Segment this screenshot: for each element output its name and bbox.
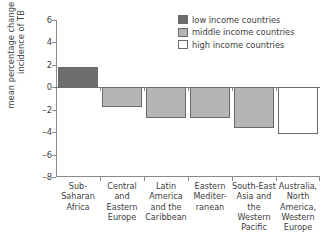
x-axis-category-label-line: South-East (232, 181, 276, 191)
baseline-tick-mark (144, 87, 145, 91)
bar (102, 87, 142, 107)
legend-swatch (178, 28, 188, 37)
x-axis-category-label-line: ranean (188, 202, 232, 212)
y-axis-line (56, 20, 57, 177)
x-axis-category-label-line: Europe (100, 212, 144, 222)
y-axis-tick-mark (52, 132, 56, 133)
legend-item: high income countries (178, 39, 295, 50)
y-axis-title-line-2: incidence of TB (16, 10, 26, 74)
baseline-tick-mark (232, 87, 233, 91)
y-axis-tick-label: –4 (43, 127, 52, 137)
x-axis-category-label-line: Latin (144, 181, 188, 191)
y-axis-tick-mark (52, 42, 56, 43)
legend-item: low income countries (178, 14, 295, 25)
x-axis-category-label-line: Central and (100, 181, 144, 202)
y-axis-tick-mark (52, 155, 56, 156)
x-axis-category-label-line: and the (144, 202, 188, 212)
x-axis-category-label-line: North (276, 191, 320, 201)
bar (234, 87, 274, 127)
legend-swatch (178, 15, 188, 24)
x-axis-category-label: South-EastAsia andthe WesternPacific (232, 181, 276, 233)
x-axis-category-label: Australia,NorthAmerica,WesternEurope (276, 181, 320, 233)
x-axis-category-label: Central andEasternEurope (100, 181, 144, 222)
y-axis-tick-label: –2 (43, 105, 52, 115)
y-axis-tick-mark (52, 110, 56, 111)
x-axis-category-label: LatinAmericaand theCaribbean (144, 181, 188, 222)
x-axis-category-label: Sub-SaharanAfrica (56, 181, 100, 212)
x-axis-category-label-line: Saharan (56, 191, 100, 201)
y-axis-title: mean percentage change in the incidence … (0, 0, 32, 122)
x-axis-category-label-line: Sub- (56, 181, 100, 191)
y-axis-tick-mark (52, 20, 56, 21)
x-axis-category-label-line: Asia and (232, 191, 276, 201)
x-axis-category-label-line: America, (276, 202, 320, 212)
x-axis-category-label-line: the Western (232, 202, 276, 223)
x-axis-category-label-line: Western (276, 212, 320, 222)
bar (146, 87, 186, 117)
x-axis-category-label-line: Pacific (232, 222, 276, 232)
x-axis-category-label-line: Caribbean (144, 212, 188, 222)
y-axis-tick-labels: 6420–2–4–6–8 (38, 0, 52, 242)
x-axis-category-label-line: Eastern (100, 202, 144, 212)
x-axis-category-label-line: America (144, 191, 188, 201)
x-axis-category-label-line: Eastern (188, 181, 232, 191)
x-axis-category-label: EasternMediter-ranean (188, 181, 232, 212)
x-axis-category-label-line: Mediter- (188, 191, 232, 201)
baseline-tick-mark (188, 87, 189, 91)
x-axis-category-label-line: Africa (56, 202, 100, 212)
legend-label: high income countries (192, 40, 284, 50)
y-axis-tick-label: –8 (43, 172, 52, 182)
legend-label: low income countries (192, 15, 280, 25)
legend-item: middle income countries (178, 27, 295, 38)
baseline-tick-mark (276, 87, 277, 91)
legend: low income countriesmiddle income countr… (178, 14, 295, 50)
legend-label: middle income countries (192, 27, 295, 37)
y-axis-tick-mark (52, 87, 56, 88)
legend-swatch (178, 40, 188, 49)
x-axis-category-label-line: Australia, (276, 181, 320, 191)
bar (58, 67, 98, 87)
baseline-tick-mark (100, 87, 101, 91)
y-axis-tick-label: –6 (43, 150, 52, 160)
x-axis-category-label-line: Europe (276, 222, 320, 232)
bar (278, 87, 318, 134)
x-axis-category-labels: Sub-SaharanAfricaCentral andEasternEurop… (56, 181, 320, 241)
y-axis-tick-mark (52, 177, 56, 178)
y-axis-tick-mark (52, 65, 56, 66)
bar-chart-figure: mean percentage change in the incidence … (0, 0, 329, 242)
bar (190, 87, 230, 117)
y-axis-title-line-1: mean percentage change in the (6, 0, 16, 109)
